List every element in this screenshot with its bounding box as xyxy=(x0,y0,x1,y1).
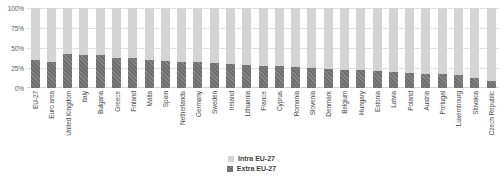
bar-slot xyxy=(76,8,92,88)
bar-segment xyxy=(210,8,219,63)
x-axis-slot: Romania xyxy=(288,90,304,148)
stacked-bar[interactable] xyxy=(291,8,300,88)
bar-slot xyxy=(369,8,385,88)
bar-segment xyxy=(275,8,284,66)
stacked-bar[interactable] xyxy=(63,8,72,88)
bar-segment xyxy=(128,58,137,88)
bar-slot xyxy=(92,8,108,88)
stacked-bar[interactable] xyxy=(47,8,56,88)
bar-segment xyxy=(438,74,447,88)
legend-item[interactable]: Extra EU-27 xyxy=(227,165,276,173)
stacked-bar[interactable] xyxy=(79,8,88,88)
x-axis-tick-label: Lithuania xyxy=(243,91,250,116)
bar-segment xyxy=(161,61,170,88)
bar-segment xyxy=(421,74,430,88)
bar-slot xyxy=(125,8,141,88)
stacked-bar[interactable] xyxy=(307,8,316,88)
legend-label: Extra EU-27 xyxy=(237,165,276,173)
stacked-bar[interactable] xyxy=(487,8,496,88)
bar-segment xyxy=(47,8,56,62)
stacked-bar[interactable] xyxy=(112,8,121,88)
y-axis-tick-label: 50% xyxy=(0,45,24,52)
bar-segment xyxy=(454,75,463,88)
bar-slot xyxy=(288,8,304,88)
stacked-bar[interactable] xyxy=(193,8,202,88)
x-axis-slot: Euro area xyxy=(43,90,59,148)
bar-segment xyxy=(291,8,300,67)
bar-slot xyxy=(43,8,59,88)
bar-slot xyxy=(157,8,173,88)
bar-slot xyxy=(418,8,434,88)
stacked-bar[interactable] xyxy=(210,8,219,88)
stacked-bar[interactable] xyxy=(161,8,170,88)
stacked-bar[interactable] xyxy=(226,8,235,88)
stacked-bar[interactable] xyxy=(340,8,349,88)
x-axis-slot: Finland xyxy=(125,90,141,148)
x-axis-slot: Malta xyxy=(141,90,157,148)
stacked-bar[interactable] xyxy=(373,8,382,88)
bar-slot xyxy=(60,8,76,88)
bar-segment xyxy=(356,8,365,70)
x-axis-slot: Cyprus xyxy=(271,90,287,148)
y-axis: 0%25%50%75%100% xyxy=(0,0,27,88)
x-axis-tick-label: Luxembourg xyxy=(455,91,462,126)
bar-segment xyxy=(63,54,72,88)
x-axis-tick-label: Latvia xyxy=(390,91,397,108)
stacked-bar[interactable] xyxy=(389,8,398,88)
stacked-bar[interactable] xyxy=(31,8,40,88)
bar-segment xyxy=(470,78,479,88)
stacked-bar[interactable] xyxy=(470,8,479,88)
bar-slot xyxy=(190,8,206,88)
bar-segment xyxy=(405,8,414,73)
bar-segment xyxy=(291,67,300,88)
bar-segment xyxy=(128,8,137,58)
stacked-bar[interactable] xyxy=(96,8,105,88)
bar-segment xyxy=(487,8,496,81)
stacked-bar[interactable] xyxy=(145,8,154,88)
x-axis-slot: Hungary xyxy=(353,90,369,148)
bar-segment xyxy=(307,8,316,68)
x-axis-tick-label: Poland xyxy=(406,91,413,111)
bar-segment xyxy=(438,8,447,74)
stacked-bar[interactable] xyxy=(259,8,268,88)
bar-segment xyxy=(226,8,235,64)
bar-segment xyxy=(177,8,186,62)
x-axis-slot: Latvia xyxy=(385,90,401,148)
x-axis-slot: EU-27 xyxy=(27,90,43,148)
stacked-bar[interactable] xyxy=(421,8,430,88)
x-axis-slot: Poland xyxy=(401,90,417,148)
bar-segment xyxy=(79,8,88,55)
x-axis-slot: Spain xyxy=(157,90,173,148)
bar-segment xyxy=(340,70,349,88)
stacked-bar[interactable] xyxy=(405,8,414,88)
x-axis-tick-label: Cyprus xyxy=(276,91,283,111)
plot-area xyxy=(27,8,499,88)
stacked-bar[interactable] xyxy=(356,8,365,88)
x-axis-slot: United Kingdom xyxy=(60,90,76,148)
x-axis-slot: Netherlands xyxy=(174,90,190,148)
x-axis-tick-label: Bulgaria xyxy=(97,91,104,114)
stacked-bar-chart: 0%25%50%75%100% EU-27Euro areaUnited Kin… xyxy=(0,0,503,191)
x-axis-slot: Germany xyxy=(190,90,206,148)
chart-legend: Intra EU-27Extra EU-27 xyxy=(0,155,503,173)
stacked-bar[interactable] xyxy=(242,8,251,88)
stacked-bar[interactable] xyxy=(324,8,333,88)
bar-slot xyxy=(353,8,369,88)
bar-slot xyxy=(450,8,466,88)
x-axis-slot: Denmark xyxy=(320,90,336,148)
x-axis: EU-27Euro areaUnited KingdomItalyBulgari… xyxy=(27,90,499,148)
x-axis-slot: Estonia xyxy=(369,90,385,148)
bar-slot xyxy=(483,8,499,88)
legend-item[interactable]: Intra EU-27 xyxy=(228,155,275,163)
bar-segment xyxy=(112,58,121,88)
x-axis-tick-label: Estonia xyxy=(374,91,381,112)
bar-segment xyxy=(470,8,479,78)
stacked-bar[interactable] xyxy=(275,8,284,88)
bar-segment xyxy=(210,63,219,88)
x-axis-tick-label: Belgium xyxy=(341,91,348,114)
stacked-bar[interactable] xyxy=(177,8,186,88)
stacked-bar[interactable] xyxy=(438,8,447,88)
stacked-bar[interactable] xyxy=(454,8,463,88)
bar-segment xyxy=(356,70,365,88)
stacked-bar[interactable] xyxy=(128,8,137,88)
